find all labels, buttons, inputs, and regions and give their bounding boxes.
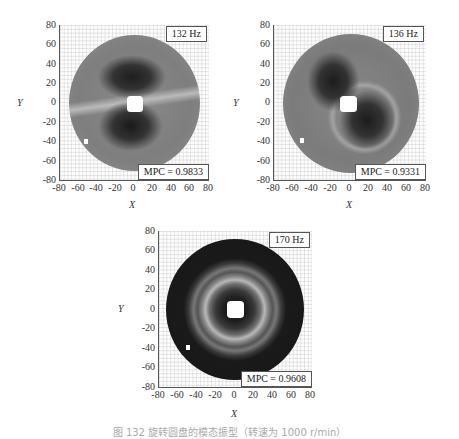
y-tick: -60 <box>133 361 155 372</box>
x-axis-label: X <box>129 199 135 210</box>
plot-area: 170 Hz MPC = 0.9608 <box>158 231 312 388</box>
mpc-label: MPC = 0.9331 <box>355 164 426 180</box>
y-axis-label: Y <box>233 97 239 108</box>
y-tick: -20 <box>34 116 56 127</box>
plot-area: 132 Hz MPC = 0.9833 <box>59 25 209 181</box>
sensor-marker <box>84 139 88 144</box>
mode-shape-panel-132hz: 132 Hz MPC = 0.9833 80 60 40 20 0 -20 -4… <box>0 0 230 210</box>
y-tick: -40 <box>34 135 56 146</box>
y-tick: 60 <box>248 38 270 49</box>
y-tick: 20 <box>133 283 155 294</box>
y-tick: -60 <box>248 155 270 166</box>
mpc-label: MPC = 0.9608 <box>241 371 312 387</box>
y-tick: -40 <box>133 342 155 353</box>
x-tick: 80 <box>298 389 322 400</box>
y-tick: 0 <box>34 96 56 107</box>
sensor-marker <box>186 345 190 350</box>
center-hole <box>340 96 357 112</box>
frequency-label: 132 Hz <box>166 26 207 42</box>
y-tick: -20 <box>248 116 270 127</box>
y-tick: 80 <box>133 225 155 236</box>
mode-shape-panel-136hz: 136 Hz MPC = 0.9331 80 60 40 20 0 -20 -4… <box>230 0 459 210</box>
y-tick: 40 <box>34 58 56 69</box>
y-tick: 60 <box>34 38 56 49</box>
center-hole <box>127 96 143 112</box>
x-axis-label: X <box>231 408 237 419</box>
y-tick: 0 <box>248 96 270 107</box>
frequency-label: 170 Hz <box>269 232 310 248</box>
center-hole <box>227 301 244 318</box>
y-tick: 80 <box>248 19 270 30</box>
y-tick: 40 <box>133 264 155 275</box>
mpc-label: MPC = 0.9833 <box>138 164 209 180</box>
y-tick: -20 <box>133 322 155 333</box>
plot-area: 136 Hz MPC = 0.9331 <box>273 25 426 181</box>
y-tick: -60 <box>34 155 56 166</box>
y-tick: 80 <box>34 19 56 30</box>
y-tick: 20 <box>34 77 56 88</box>
y-axis-label: Y <box>17 97 23 108</box>
y-tick: 20 <box>248 77 270 88</box>
mode-shape-panel-170hz: 170 Hz MPC = 0.9608 80 60 40 20 0 -20 -4… <box>120 210 350 420</box>
x-tick: 80 <box>413 182 437 193</box>
y-tick: 60 <box>133 244 155 255</box>
frequency-label: 136 Hz <box>383 26 424 42</box>
sensor-marker <box>300 138 304 143</box>
x-tick: 80 <box>196 182 220 193</box>
y-tick: 40 <box>248 58 270 69</box>
y-axis-label: Y <box>118 303 124 314</box>
y-tick: -40 <box>248 135 270 146</box>
y-tick: 0 <box>133 303 155 314</box>
figure-caption: 图 132 旋转圆盘的模态振型（转速为 1000 r/min） <box>0 424 459 439</box>
x-axis-label: X <box>346 199 352 210</box>
